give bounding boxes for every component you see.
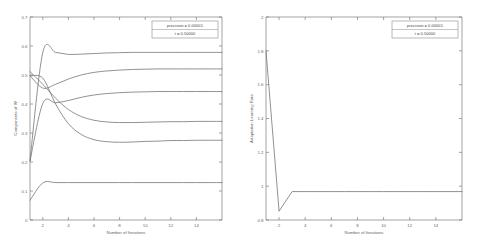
y-axis-title: Components of W xyxy=(13,100,18,135)
y-tick-label: 1.8 xyxy=(257,49,264,54)
axis-frame xyxy=(266,17,462,220)
x-tick-label: 10 xyxy=(381,223,386,228)
y-tick-label: 1 xyxy=(261,184,264,189)
x-tick-label: 12 xyxy=(407,223,412,228)
x-tick-label: 6 xyxy=(330,223,333,228)
y-tick-label: 1.2 xyxy=(257,150,264,155)
components-of-w-plot: 00.10.20.30.40.50.60.72468101214Number o… xyxy=(0,0,240,247)
y-tick-label: 0 xyxy=(25,218,28,223)
chart-panel-right: 0.811.21.41.61.822468101214Number of Ite… xyxy=(240,0,480,247)
axis-frame xyxy=(30,17,222,220)
y-tick-label: 0.7 xyxy=(21,15,28,20)
legend-entry-0: precision = 0.00001 xyxy=(407,23,444,28)
legend-entry-1: t = 0.50000 xyxy=(175,31,196,36)
y-axis-title: Adaptation Learning Rate xyxy=(249,94,254,143)
series-line-w3 xyxy=(30,92,222,162)
adaptation-learning-rate-plot: 0.811.21.41.61.822468101214Number of Ite… xyxy=(240,0,480,247)
series-line-w4 xyxy=(30,72,222,123)
x-tick-label: 8 xyxy=(118,223,121,228)
x-tick-label: 4 xyxy=(67,223,70,228)
series-line-learning rate xyxy=(266,51,462,211)
x-tick-label: 8 xyxy=(356,223,359,228)
x-tick-label: 4 xyxy=(304,223,307,228)
y-tick-label: 1.4 xyxy=(257,116,264,121)
series-line-w6 xyxy=(30,182,222,201)
y-tick-label: 0.5 xyxy=(21,73,28,78)
x-axis-title: Number of Iterations xyxy=(107,230,146,235)
chart-panel-left: 00.10.20.30.40.50.60.72468101214Number o… xyxy=(0,0,240,247)
x-tick-label: 2 xyxy=(42,223,45,228)
y-tick-label: 0.8 xyxy=(257,218,264,223)
x-tick-label: 2 xyxy=(278,223,281,228)
y-tick-label: 0.4 xyxy=(21,102,28,107)
legend-entry-1: t = 0.50000 xyxy=(415,31,436,36)
x-tick-label: 10 xyxy=(143,223,148,228)
y-tick-label: 0.1 xyxy=(21,189,28,194)
figure-container: 00.10.20.30.40.50.60.72468101214Number o… xyxy=(0,0,481,247)
legend-entry-0: precision = 0.00001 xyxy=(167,23,204,28)
y-tick-label: 1.6 xyxy=(257,82,264,87)
y-tick-label: 0.2 xyxy=(21,160,28,165)
series-line-w2 xyxy=(30,69,222,88)
y-tick-label: 0.3 xyxy=(21,131,28,136)
y-tick-label: 0.6 xyxy=(21,44,28,49)
x-tick-label: 6 xyxy=(93,223,96,228)
x-tick-label: 14 xyxy=(194,223,199,228)
series-line-w5 xyxy=(30,75,222,142)
y-tick-label: 2 xyxy=(261,15,264,20)
x-tick-label: 14 xyxy=(433,223,438,228)
x-tick-label: 12 xyxy=(168,223,173,228)
x-axis-title: Number of Iterations xyxy=(345,230,384,235)
